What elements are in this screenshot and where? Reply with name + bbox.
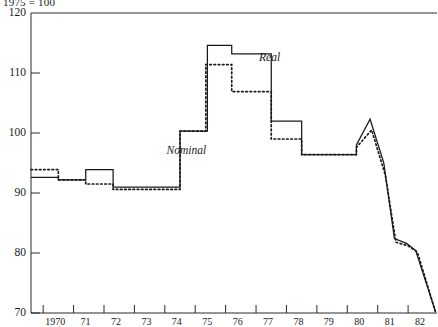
y-tick-label: 100	[0, 127, 26, 139]
x-tick-label: 74	[172, 317, 182, 327]
data-series-layer	[31, 45, 435, 311]
x-tick-label: 1970	[45, 317, 65, 327]
series-label-nominal: Nominal	[167, 145, 207, 157]
y-axis-ticks	[31, 73, 40, 313]
x-tick-label: 72	[111, 317, 121, 327]
y-tick-label: 70	[0, 307, 26, 319]
x-tick-label: 71	[81, 317, 91, 327]
x-tick-label: 75	[202, 317, 212, 327]
x-tick-label: 82	[415, 317, 425, 327]
x-tick-label: 79	[324, 317, 334, 327]
series-line-nominal	[31, 65, 435, 312]
series-line-real	[31, 45, 435, 311]
y-tick-label: 80	[0, 247, 26, 259]
y-tick-label: 90	[0, 187, 26, 199]
axis-frame	[31, 13, 437, 313]
x-tick-label: 73	[141, 317, 151, 327]
x-tick-label: 80	[354, 317, 364, 327]
x-tick-label: 77	[263, 317, 273, 327]
y-tick-label: 120	[0, 7, 26, 19]
x-tick-label: 81	[385, 317, 395, 327]
x-tick-label: 76	[233, 317, 243, 327]
x-tick-label: 78	[293, 317, 303, 327]
series-label-real: Real	[259, 52, 280, 64]
x-axis-ticks	[31, 305, 437, 313]
y-tick-label: 110	[0, 67, 26, 79]
